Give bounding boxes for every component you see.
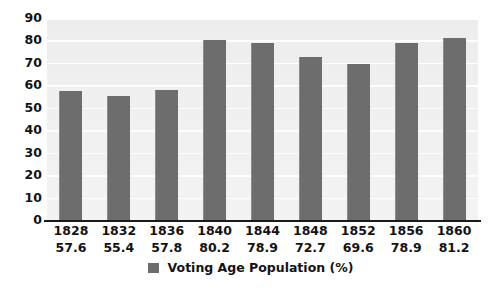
y-axis-tick-label: 50 <box>0 102 42 115</box>
legend-label: Voting Age Population (%) <box>168 262 354 275</box>
bar <box>107 96 130 220</box>
y-axis: 0102030405060708090 <box>0 12 42 228</box>
y-axis-tick-label: 0 <box>0 214 42 227</box>
x-axis-labels: 182857.6183255.4183657.8184080.2184478.9… <box>47 222 478 262</box>
legend-swatch-voting-age-population <box>148 263 159 273</box>
bar <box>299 57 322 220</box>
x-axis-value-label: 55.4 <box>95 239 143 256</box>
bar <box>203 40 226 220</box>
y-axis-tick-label: 20 <box>0 169 42 182</box>
x-axis-label-group: 183657.8 <box>143 222 191 256</box>
x-axis-value-label: 78.9 <box>239 239 287 256</box>
bars-layer <box>47 18 478 220</box>
x-axis-category-label: 1844 <box>239 222 287 239</box>
x-axis-value-label: 80.2 <box>191 239 239 256</box>
x-axis-category-label: 1848 <box>286 222 334 239</box>
x-axis-label-group: 184478.9 <box>239 222 287 256</box>
x-axis-value-label: 81.2 <box>430 239 478 256</box>
x-axis-label-group: 186081.2 <box>430 222 478 256</box>
bar <box>155 90 178 220</box>
legend: Voting Age Population (%) <box>0 262 501 275</box>
x-axis-category-label: 1828 <box>47 222 95 239</box>
x-axis-label-group: 185678.9 <box>382 222 430 256</box>
x-axis-value-label: 69.6 <box>334 239 382 256</box>
y-axis-tick-label: 80 <box>0 34 42 47</box>
x-axis-category-label: 1856 <box>382 222 430 239</box>
x-axis-value-label: 57.6 <box>47 239 95 256</box>
x-axis-category-label: 1860 <box>430 222 478 239</box>
x-axis-category-label: 1852 <box>334 222 382 239</box>
x-axis-category-label: 1836 <box>143 222 191 239</box>
bar <box>347 64 370 220</box>
y-axis-tick-label: 60 <box>0 79 42 92</box>
y-axis-tick-label: 40 <box>0 124 42 137</box>
x-axis-label-group: 182857.6 <box>47 222 95 256</box>
bar-chart: 0102030405060708090 182857.6183255.41836… <box>0 0 501 292</box>
bar <box>443 38 466 220</box>
x-axis-label-group: 185269.6 <box>334 222 382 256</box>
y-axis-tick-label: 30 <box>0 146 42 159</box>
x-axis-label-group: 184872.7 <box>286 222 334 256</box>
bar <box>395 43 418 220</box>
bar <box>59 91 82 220</box>
y-axis-tick-label: 10 <box>0 191 42 204</box>
x-axis-value-label: 72.7 <box>286 239 334 256</box>
x-axis-value-label: 78.9 <box>382 239 430 256</box>
x-axis-category-label: 1840 <box>191 222 239 239</box>
x-axis-category-label: 1832 <box>95 222 143 239</box>
y-axis-tick-label: 90 <box>0 12 42 25</box>
bar <box>251 43 274 220</box>
plot-area <box>47 18 478 220</box>
y-axis-tick-label: 70 <box>0 57 42 70</box>
x-axis-value-label: 57.8 <box>143 239 191 256</box>
x-axis-label-group: 184080.2 <box>191 222 239 256</box>
x-axis-label-group: 183255.4 <box>95 222 143 256</box>
